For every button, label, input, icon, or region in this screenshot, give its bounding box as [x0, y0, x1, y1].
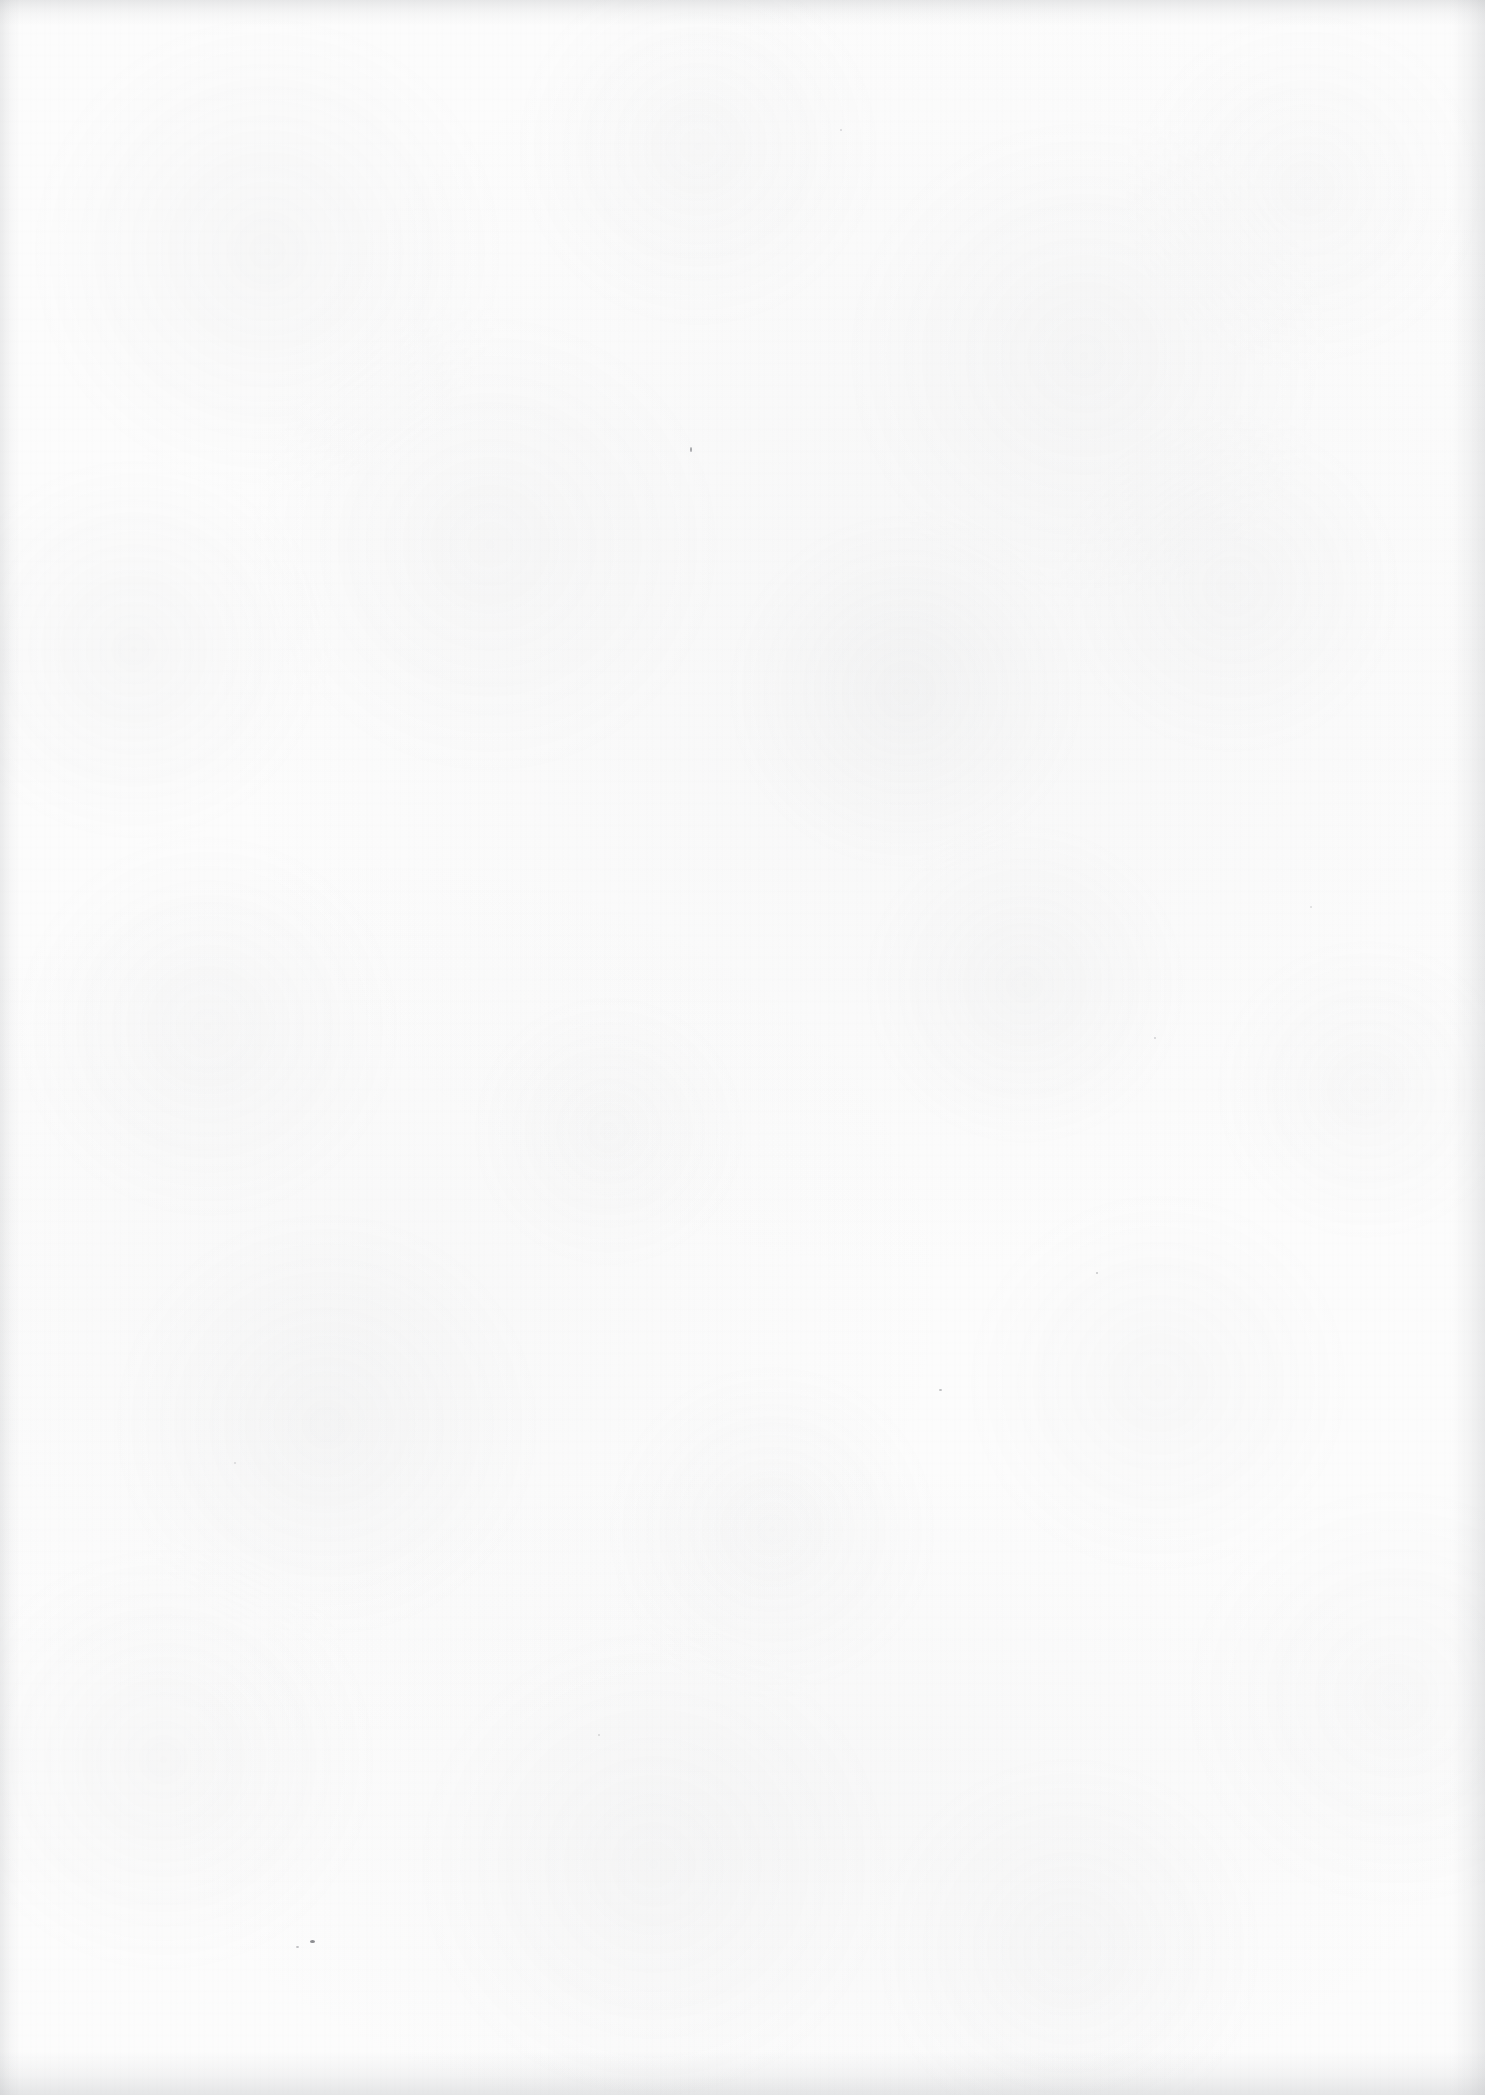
page-edge-shadow-left: [0, 0, 20, 2095]
page-edge-shadow-right: [1451, 0, 1485, 2095]
scanned-page: [0, 0, 1485, 2095]
page-edge-shadow-bottom: [0, 2051, 1485, 2095]
page-edge-shadow-top: [0, 0, 1485, 26]
paper-fibre-weave: [0, 0, 1485, 2095]
